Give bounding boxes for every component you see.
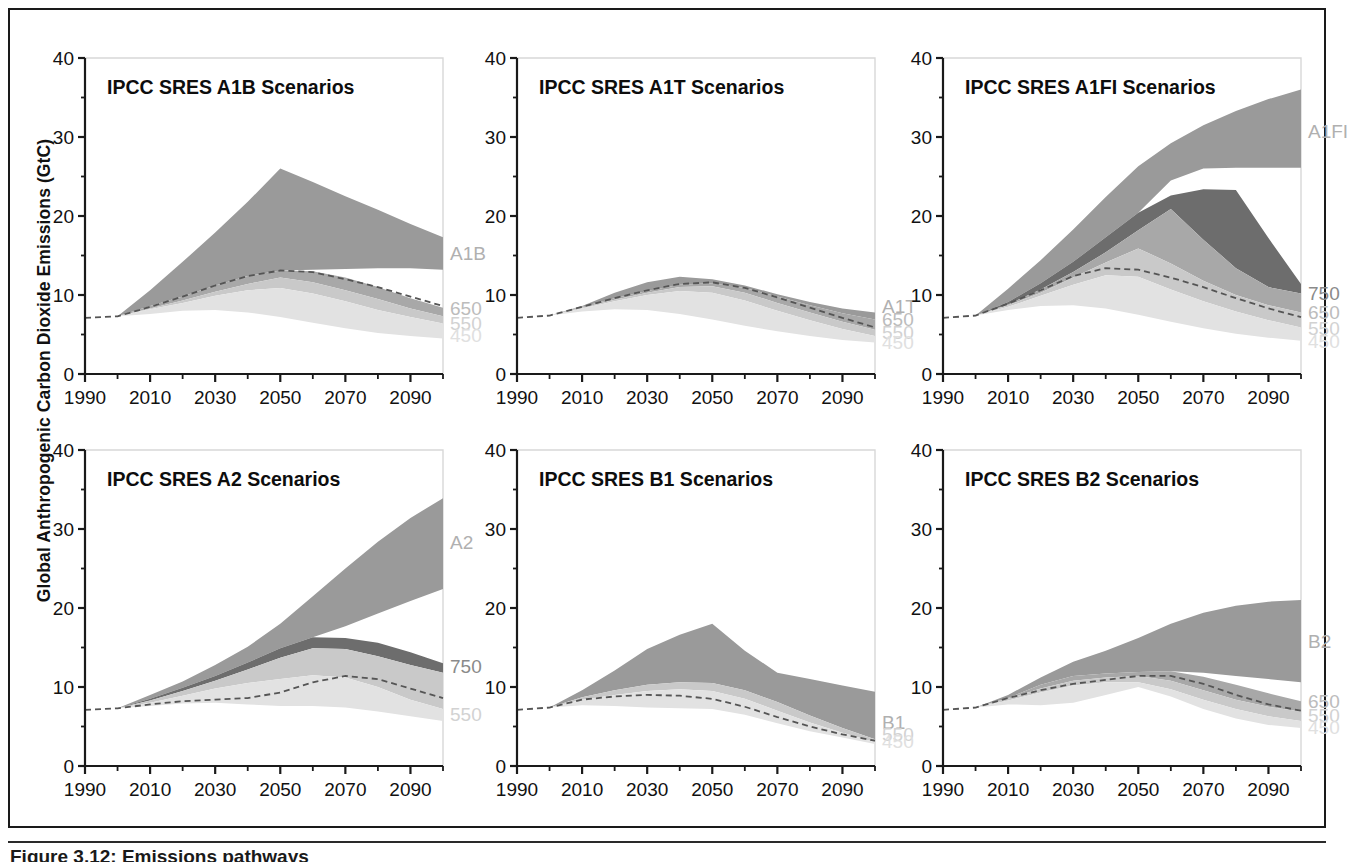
y-tick-label: 40 bbox=[485, 48, 506, 69]
x-tick-label: 2050 bbox=[691, 779, 733, 800]
x-tick-label: 1990 bbox=[496, 779, 538, 800]
x-tick-label: 2050 bbox=[691, 387, 733, 408]
x-tick-label: 1990 bbox=[64, 387, 106, 408]
y-tick-label: 20 bbox=[485, 598, 506, 619]
series-label-450: 450 bbox=[1308, 331, 1340, 352]
x-tick-label: 2090 bbox=[1247, 387, 1289, 408]
y-tick-label: 0 bbox=[921, 364, 932, 385]
y-tick-label: 10 bbox=[53, 677, 74, 698]
x-tick-label: 2050 bbox=[1117, 387, 1159, 408]
x-tick-label: 1990 bbox=[922, 779, 964, 800]
x-tick-label: 2010 bbox=[561, 779, 603, 800]
x-tick-label: 1990 bbox=[64, 779, 106, 800]
x-tick-label: 2050 bbox=[259, 387, 301, 408]
y-tick-label: 20 bbox=[911, 598, 932, 619]
y-tick-label: 40 bbox=[53, 48, 74, 69]
x-tick-label: 2070 bbox=[324, 387, 366, 408]
panel-title-b1: IPCC SRES B1 Scenarios bbox=[539, 468, 773, 490]
x-tick-label: 2030 bbox=[194, 779, 236, 800]
x-tick-label: 2090 bbox=[389, 387, 431, 408]
x-tick-label: 2010 bbox=[987, 779, 1029, 800]
chart-panel-a1b: 010203040199020102030205020702090IPCC SR… bbox=[27, 48, 525, 442]
x-tick-label: 2010 bbox=[987, 387, 1029, 408]
y-tick-label: 30 bbox=[485, 127, 506, 148]
x-tick-label: 2030 bbox=[1052, 779, 1094, 800]
y-tick-label: 20 bbox=[485, 206, 506, 227]
y-tick-label: 40 bbox=[485, 440, 506, 461]
series-label-b2: B2 bbox=[1308, 631, 1331, 652]
y-tick-label: 10 bbox=[485, 285, 506, 306]
figure-caption: Figure 3.12: Emissions pathways bbox=[10, 846, 1010, 862]
series-label-750: 750 bbox=[1308, 283, 1340, 304]
y-tick-label: 10 bbox=[911, 285, 932, 306]
x-tick-label: 2010 bbox=[129, 779, 171, 800]
series-label-a1fi: A1FI bbox=[1308, 121, 1348, 142]
x-tick-label: 2030 bbox=[194, 387, 236, 408]
x-tick-label: 2030 bbox=[626, 387, 668, 408]
chart-panel-b2: 010203040199020102030205020702090IPCC SR… bbox=[885, 440, 1351, 834]
panel-title-a1b: IPCC SRES A1B Scenarios bbox=[107, 76, 355, 98]
y-tick-label: 20 bbox=[53, 598, 74, 619]
x-tick-label: 2090 bbox=[821, 387, 863, 408]
series-label-450: 450 bbox=[1308, 717, 1340, 738]
y-tick-label: 30 bbox=[911, 519, 932, 540]
chart-panel-b1: 010203040199020102030205020702090IPCC SR… bbox=[459, 440, 957, 834]
x-tick-label: 2070 bbox=[756, 779, 798, 800]
y-tick-label: 0 bbox=[63, 364, 74, 385]
y-tick-label: 0 bbox=[63, 756, 74, 777]
y-tick-label: 10 bbox=[911, 677, 932, 698]
y-tick-label: 40 bbox=[911, 440, 932, 461]
y-tick-label: 20 bbox=[53, 206, 74, 227]
y-tick-label: 20 bbox=[911, 206, 932, 227]
x-tick-label: 2070 bbox=[1182, 779, 1224, 800]
y-tick-label: 0 bbox=[495, 364, 506, 385]
x-tick-label: 2090 bbox=[821, 779, 863, 800]
x-tick-label: 2010 bbox=[129, 387, 171, 408]
x-tick-label: 2070 bbox=[324, 779, 366, 800]
y-tick-label: 40 bbox=[911, 48, 932, 69]
x-tick-label: 2070 bbox=[756, 387, 798, 408]
y-tick-label: 30 bbox=[53, 519, 74, 540]
x-tick-label: 2050 bbox=[1117, 779, 1159, 800]
chart-panel-a1t: 010203040199020102030205020702090IPCC SR… bbox=[459, 48, 957, 442]
y-tick-label: 30 bbox=[485, 519, 506, 540]
panel-title-b2: IPCC SRES B2 Scenarios bbox=[965, 468, 1199, 490]
chart-panel-a1fi: 010203040199020102030205020702090IPCC SR… bbox=[885, 48, 1351, 442]
x-tick-label: 2050 bbox=[259, 779, 301, 800]
x-tick-label: 2090 bbox=[389, 779, 431, 800]
panel-title-a1fi: IPCC SRES A1FI Scenarios bbox=[965, 76, 1216, 98]
chart-panel-a2: 010203040199020102030205020702090IPCC SR… bbox=[27, 440, 525, 834]
y-tick-label: 0 bbox=[495, 756, 506, 777]
x-tick-label: 2030 bbox=[626, 779, 668, 800]
x-tick-label: 1990 bbox=[922, 387, 964, 408]
x-tick-label: 2030 bbox=[1052, 387, 1094, 408]
y-tick-label: 40 bbox=[53, 440, 74, 461]
x-tick-label: 1990 bbox=[496, 387, 538, 408]
x-tick-label: 2070 bbox=[1182, 387, 1224, 408]
panel-title-a1t: IPCC SRES A1T Scenarios bbox=[539, 76, 784, 98]
y-tick-label: 30 bbox=[911, 127, 932, 148]
y-tick-label: 30 bbox=[53, 127, 74, 148]
panel-title-a2: IPCC SRES A2 Scenarios bbox=[107, 468, 341, 490]
x-tick-label: 2090 bbox=[1247, 779, 1289, 800]
caption-divider bbox=[8, 841, 1326, 843]
y-tick-label: 10 bbox=[485, 677, 506, 698]
y-tick-label: 0 bbox=[921, 756, 932, 777]
x-tick-label: 2010 bbox=[561, 387, 603, 408]
y-tick-label: 10 bbox=[53, 285, 74, 306]
